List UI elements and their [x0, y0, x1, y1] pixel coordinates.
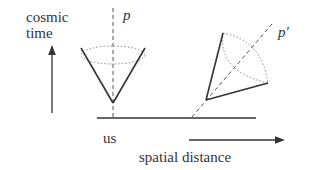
y-axis-label-line1: cosmic	[26, 9, 69, 25]
cone-edge-lower	[206, 83, 268, 100]
x-axis-label: spatial distance	[139, 149, 231, 165]
cone-edge-upper	[206, 33, 223, 100]
label-us: us	[103, 130, 117, 146]
label-p: p	[122, 7, 131, 23]
cone-edge-right	[113, 48, 145, 103]
cone-rim-arc-outer	[223, 33, 268, 83]
y-axis-label-line2: time	[26, 25, 53, 41]
light-cone-upright	[81, 8, 145, 118]
light-cone-diagram: cosmic time p p' us spatial distance	[0, 0, 309, 170]
cone-rim-ellipse	[81, 46, 145, 64]
worldline-p-prime	[192, 24, 272, 117]
cone-rim-arc-inner	[223, 33, 268, 83]
cone-edge-left	[81, 48, 113, 103]
light-cone-tilted	[192, 24, 272, 117]
label-p-prime: p'	[277, 24, 290, 40]
